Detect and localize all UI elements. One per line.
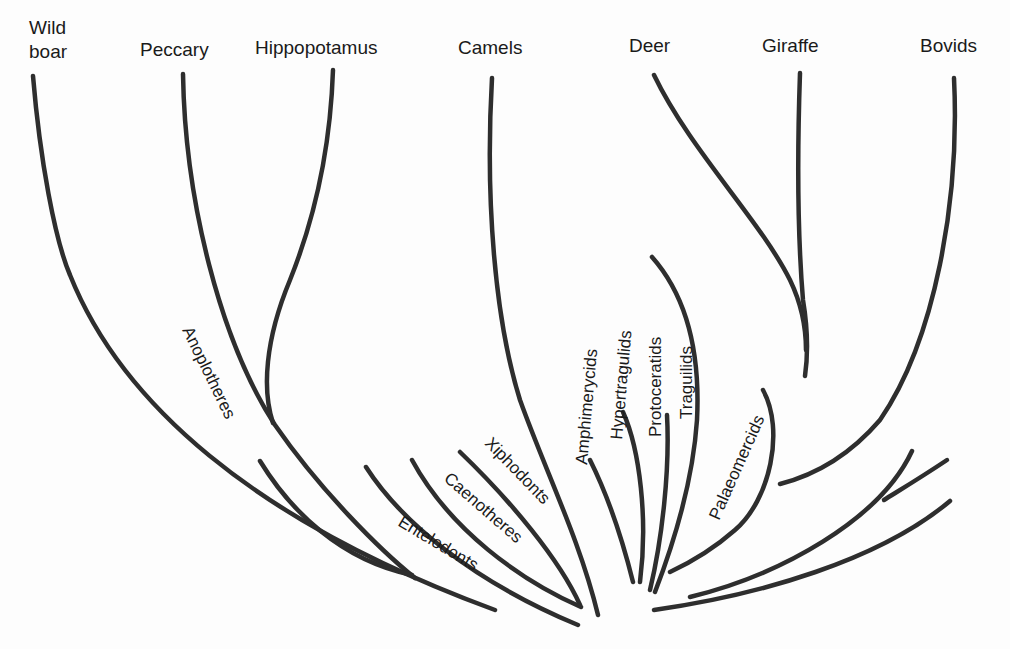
label-wild-boar-line2: boar [29,41,68,62]
branch-deer [654,75,806,350]
label-palaeomercids: Palaeomercids [705,412,768,522]
branch-peccary [183,74,415,578]
label-deer: Deer [629,35,671,56]
label-hypertragulids: Hypertragulids [607,330,635,441]
phylogeny-diagram: Wild boar Peccary Hippopotamus Camels De… [0,0,1010,649]
label-hippopotamus: Hippopotamus [255,37,378,58]
label-protoceratids: Protoceratids [646,337,665,437]
label-entelodonts: Entelodonts [395,512,482,575]
label-camels: Camels [458,37,522,58]
label-peccary: Peccary [140,39,209,60]
tree-canvas: Wild boar Peccary Hippopotamus Camels De… [0,0,1010,649]
label-wild-boar-line1: Wild [29,17,66,38]
branch-hippopotamus [267,70,333,423]
label-traguilids: Traguilids [677,346,696,419]
label-giraffe: Giraffe [762,35,819,56]
branch-bovids [780,78,955,484]
label-xiphodonts: Xiphodonts [481,434,554,508]
label-amphimerycids: Amphimerycids [572,348,601,465]
branch-amphimerycids [590,460,633,582]
label-bovids: Bovids [920,35,977,56]
